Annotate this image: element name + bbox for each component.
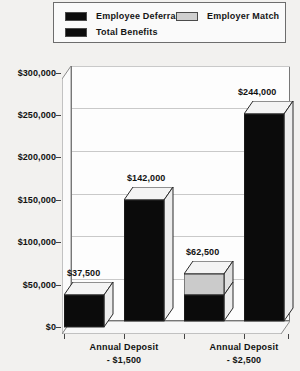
y-tick-label: $0 [46,323,56,332]
x-category-line2: - $2,500 [184,354,300,367]
legend-item-employer-match: Employer Match [176,11,279,21]
x-tick-mark [288,334,289,339]
y-tick-mark [56,242,61,243]
x-category-label-2500: Annual Deposit - $2,500 [184,341,300,367]
y-tick-mark [56,115,61,116]
x-tick-mark [124,334,125,339]
x-category-line1: Annual Deposit [210,342,279,352]
x-tick-mark [244,334,245,339]
x-tick-mark [184,334,185,339]
y-tick-label: $50,000 [23,281,56,290]
bar-stacked-deferral-match-2500 [184,261,238,334]
y-tick-mark [56,200,61,201]
bar-total-benefits-2500 [244,101,298,334]
x-category-line1: Annual Deposit [90,342,159,352]
y-tick-mark [56,157,61,158]
gridline [72,66,290,67]
y-tick-mark [56,73,61,74]
y-tick-mark [56,285,61,286]
y-tick-label: $300,000 [18,69,56,78]
y-axis: $300,000 $250,000 $200,000 $150,000 $100… [0,0,56,371]
legend-label-total-benefits: Total Benefits [96,27,158,37]
bar-employee-deferral-1500 [64,282,118,334]
chart-legend: Employee Deferral Total Benefits Employe… [53,2,286,43]
legend-swatch-icon-employee-deferral [65,12,87,21]
legend-item-total-benefits: Total Benefits [65,27,158,37]
bar-value-label: $142,000 [127,174,165,183]
y-tick-mark [56,327,61,328]
bar-value-label: $62,500 [186,248,219,257]
bar-value-label: $244,000 [238,88,276,97]
x-category-label-1500: Annual Deposit - $1,500 [64,341,184,367]
legend-label-employee-deferral: Employee Deferral [96,11,178,21]
legend-item-employee-deferral: Employee Deferral [65,11,178,21]
legend-swatch-icon-employer-match [176,12,198,21]
bar-value-label: $37,500 [67,269,100,278]
plot-area: $37,500 $142,000 $62,500 $244,000 [62,66,290,334]
legend-swatch-icon-total-benefits [65,28,87,37]
bar-total-benefits-1500 [124,187,178,334]
bar-chart: Employee Deferral Total Benefits Employe… [0,0,300,371]
y-tick-label: $150,000 [18,196,56,205]
y-tick-label: $250,000 [18,111,56,120]
x-category-line2: - $1,500 [64,354,184,367]
y-tick-label: $200,000 [18,153,56,162]
x-tick-mark [64,334,65,339]
y-tick-label: $100,000 [18,238,56,247]
legend-label-employer-match: Employer Match [207,11,279,21]
